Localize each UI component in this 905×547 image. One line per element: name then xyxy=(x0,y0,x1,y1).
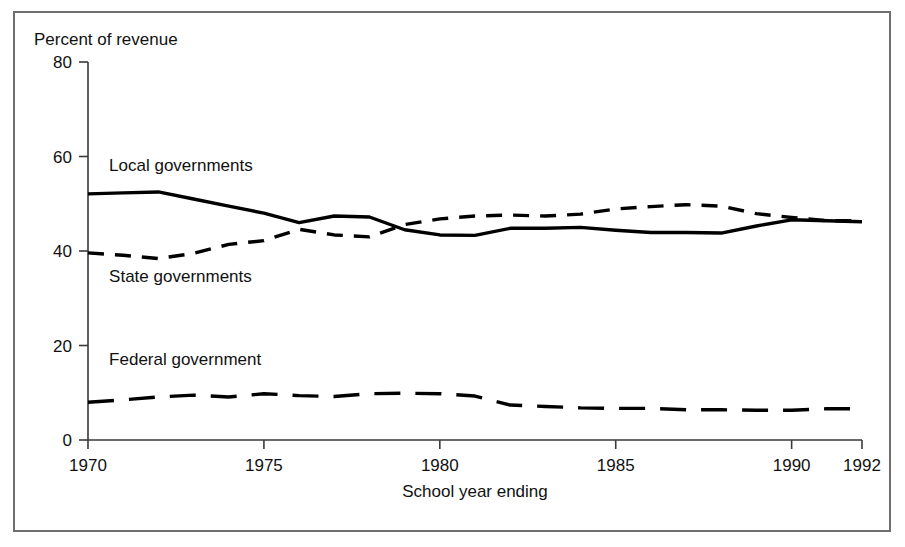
series-line-federal-government xyxy=(88,393,862,410)
y-axis-tick-labels: 020406080 xyxy=(53,53,72,450)
y-axis-ticks xyxy=(79,62,88,440)
y-axis-title: Percent of revenue xyxy=(34,30,178,49)
series-line-state-governments xyxy=(88,205,862,259)
x-axis-title: School year ending xyxy=(402,482,548,501)
y-tick-label: 20 xyxy=(53,337,72,356)
y-tick-label: 40 xyxy=(53,242,72,261)
y-tick-label: 60 xyxy=(53,148,72,167)
x-tick-label: 1992 xyxy=(843,456,881,475)
x-tick-label: 1990 xyxy=(773,456,811,475)
x-axis-tick-labels: 197019751980198519901992 xyxy=(69,456,881,475)
y-tick-label: 80 xyxy=(53,53,72,72)
x-tick-label: 1975 xyxy=(245,456,283,475)
series-annotations-group: Local governmentsState governmentsFedera… xyxy=(109,156,261,370)
figure-container: 020406080 197019751980198519901992 Perce… xyxy=(0,0,905,547)
x-axis-ticks xyxy=(88,440,862,449)
x-tick-label: 1980 xyxy=(421,456,459,475)
x-tick-label: 1970 xyxy=(69,456,107,475)
series-annotation-label: Local governments xyxy=(109,156,253,175)
y-tick-label: 0 xyxy=(63,431,72,450)
series-annotation-label: State governments xyxy=(109,267,252,286)
series-line-local-governments xyxy=(88,192,862,235)
x-tick-label: 1985 xyxy=(597,456,635,475)
data-series-group xyxy=(88,192,862,410)
line-chart-plot: 020406080 197019751980198519901992 Perce… xyxy=(0,0,905,547)
series-annotation-label: Federal government xyxy=(109,350,261,369)
